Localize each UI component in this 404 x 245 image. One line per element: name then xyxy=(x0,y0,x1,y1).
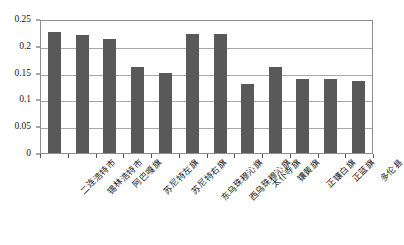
y-tick-label: 0.2 xyxy=(19,42,31,52)
bar[interactable] xyxy=(324,79,337,154)
y-tick-label: 0.15 xyxy=(14,69,31,79)
bar[interactable] xyxy=(186,34,199,153)
bar-slot xyxy=(344,21,372,153)
bar-slot xyxy=(179,21,207,153)
bar[interactable] xyxy=(241,84,254,153)
y-tick-label: 0.05 xyxy=(14,122,31,132)
bar[interactable] xyxy=(159,73,172,153)
bar[interactable] xyxy=(352,81,365,153)
bar[interactable] xyxy=(296,79,309,154)
y-tick-label: 0.25 xyxy=(14,15,31,25)
bar[interactable] xyxy=(76,35,89,153)
bar[interactable] xyxy=(131,67,144,153)
bar-slot xyxy=(289,21,317,153)
y-axis: 0.250.20.150.10.050 xyxy=(0,20,36,154)
plot-area xyxy=(40,20,373,154)
bar[interactable] xyxy=(269,67,282,153)
bar[interactable] xyxy=(103,39,116,153)
bar-slot xyxy=(206,21,234,153)
bar[interactable] xyxy=(48,32,61,153)
bar-slot xyxy=(96,21,124,153)
bar-slot xyxy=(69,21,97,153)
bar-slot xyxy=(151,21,179,153)
bars-layer xyxy=(41,21,372,153)
bar-slot xyxy=(262,21,290,153)
bar-slot xyxy=(234,21,262,153)
bar[interactable] xyxy=(214,34,227,153)
y-tick-label: 0.1 xyxy=(19,96,31,106)
x-tick-mark xyxy=(373,154,374,158)
bar-slot xyxy=(317,21,345,153)
bar-slot xyxy=(124,21,152,153)
x-axis-labels: 二连浩特市锡林浩特市阿巴嘎旗苏尼特左旗苏尼特右旗东乌珠穆沁旗西乌珠穆沁旗太仆寺旗… xyxy=(40,158,373,244)
bar-slot xyxy=(41,21,69,153)
y-tick-label: 0 xyxy=(26,149,31,159)
x-axis-tick-label: 多伦县 xyxy=(379,158,404,183)
